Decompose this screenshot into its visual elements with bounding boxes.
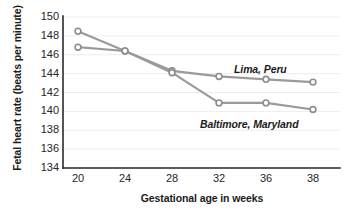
data-point — [310, 107, 316, 113]
data-point — [263, 76, 269, 82]
plot-area — [0, 0, 351, 220]
series-label-baltimore-maryland: Baltimore, Maryland — [200, 118, 298, 130]
data-point — [169, 70, 175, 76]
data-point — [263, 100, 269, 106]
data-point — [75, 44, 81, 50]
data-point — [310, 79, 316, 85]
x-axis-title: Gestational age in weeks — [63, 192, 341, 204]
data-point — [216, 100, 222, 106]
fetal-heart-rate-line-chart: Fetal heart rate (beats per minute) 1341… — [0, 0, 351, 220]
series-line-1 — [78, 47, 313, 109]
data-point — [122, 48, 128, 54]
data-point — [75, 28, 81, 34]
data-point — [216, 74, 222, 80]
series-label-lima-peru: Lima, Peru — [234, 63, 287, 75]
